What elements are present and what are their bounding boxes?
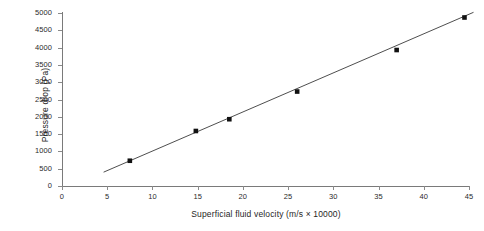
y-tick-label-wrap: 3000	[18, 78, 56, 86]
y-tick-label-wrap: 1000	[18, 147, 56, 155]
y-tick-label-wrap: 500	[18, 165, 56, 173]
x-tick-label: 45	[456, 193, 482, 201]
y-tick-label-wrap: 3500	[18, 61, 56, 69]
x-tick-5	[107, 186, 108, 190]
x-tick-label: 30	[320, 193, 346, 201]
y-tick-label-wrap: 2500	[18, 96, 56, 104]
y-tick-2500	[58, 100, 62, 101]
y-tick-3500	[58, 65, 62, 66]
x-tick-0	[62, 186, 63, 190]
y-tick-1000	[58, 151, 62, 152]
y-axis-line	[62, 12, 63, 187]
x-tick-20	[243, 186, 244, 190]
x-tick-25	[288, 186, 289, 190]
y-tick-4000	[58, 48, 62, 49]
x-tick-40	[424, 186, 425, 190]
x-axis-title: Superficial fluid velocity (m/s × 10000)	[62, 209, 470, 219]
x-tick-10	[152, 186, 153, 190]
x-tick-label: 0	[49, 193, 75, 201]
plot-area	[62, 13, 469, 186]
y-tick-1500	[58, 134, 62, 135]
x-tick-30	[333, 186, 334, 190]
y-tick-2000	[58, 117, 62, 118]
x-tick-label: 35	[366, 193, 392, 201]
x-tick-label: 5	[94, 193, 120, 201]
y-axis-title: Pressure drop (Pa)	[40, 20, 50, 190]
y-tick-5000	[58, 13, 62, 14]
y-tick-label-wrap: 4500	[18, 26, 56, 34]
x-tick-45	[469, 186, 470, 190]
y-tick-500	[58, 169, 62, 170]
y-tick-4500	[58, 30, 62, 31]
pressure-drop-chart: 0500100015002000250030003500400045005000…	[0, 0, 484, 231]
y-tick-label-wrap: 4000	[18, 44, 56, 52]
x-tick-label: 20	[230, 193, 256, 201]
y-axis-title-holder: Pressure drop (Pa)	[22, 8, 23, 9]
x-tick-label: 15	[185, 193, 211, 201]
y-tick-label-wrap: 2000	[18, 113, 56, 121]
y-tick-label-wrap: 5000	[18, 9, 56, 17]
y-tick-label: 5000	[18, 9, 52, 17]
y-tick-3000	[58, 82, 62, 83]
x-tick-35	[379, 186, 380, 190]
x-tick-label: 40	[411, 193, 437, 201]
y-tick-label-wrap: 0	[18, 182, 56, 190]
x-axis-line	[62, 186, 470, 187]
x-tick-label: 25	[275, 193, 301, 201]
y-tick-label-wrap: 1500	[18, 130, 56, 138]
x-tick-label: 10	[139, 193, 165, 201]
x-tick-15	[198, 186, 199, 190]
